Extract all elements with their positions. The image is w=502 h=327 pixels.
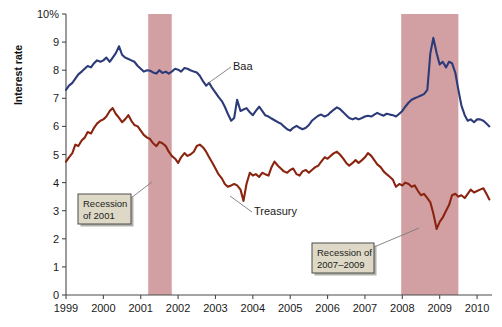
annotation-text-recession-2001: of 2001 (83, 210, 115, 221)
recession-band (148, 14, 172, 295)
series-label-treasury-label: Treasury (254, 205, 297, 217)
x-tick-label: 2008 (390, 302, 414, 314)
x-tick-label: 2010 (465, 302, 489, 314)
y-tick-label: 0 (53, 289, 59, 301)
x-tick-label: 2001 (128, 302, 152, 314)
y-tick-label: 3 (53, 205, 59, 217)
x-tick-label: 2005 (278, 302, 302, 314)
y-axis-title: Interest rate (12, 45, 24, 105)
y-tick-label: 1 (53, 261, 59, 273)
annotation-text-recession-2007-2009: Recession of (317, 247, 372, 258)
y-tick-label: 10% (37, 8, 59, 20)
x-tick-label: 2003 (203, 302, 227, 314)
y-tick-label: 4 (53, 177, 59, 189)
annotation-text-recession-2001: Recession (83, 198, 127, 209)
interest-rate-chart: 012345678910% 19992000200120022003200420… (0, 0, 502, 327)
y-tick-label: 2 (53, 233, 59, 245)
x-tick-label: 2000 (91, 302, 115, 314)
chart-canvas: 012345678910% 19992000200120022003200420… (0, 0, 502, 327)
series-label-baa-label: Baa (233, 60, 253, 72)
annotation-text-recession-2007-2009: 2007–2009 (317, 259, 365, 270)
y-tick-label: 5 (53, 149, 59, 161)
y-tick-label: 7 (53, 92, 59, 104)
y-tick-label: 6 (53, 120, 59, 132)
y-tick-label: 8 (53, 64, 59, 76)
x-tick-label: 2009 (427, 302, 451, 314)
x-tick-label: 2007 (353, 302, 377, 314)
x-tick-label: 1999 (54, 302, 78, 314)
y-tick-label: 9 (53, 36, 59, 48)
x-tick-label: 2004 (241, 302, 265, 314)
x-tick-label: 2002 (166, 302, 190, 314)
x-tick-label: 2006 (315, 302, 339, 314)
